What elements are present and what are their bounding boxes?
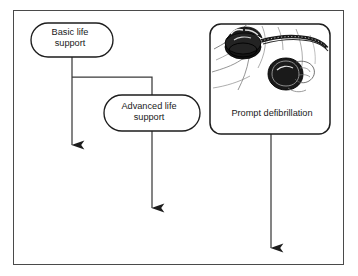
node-label-prompt-defibrillation: Prompt defibrillation — [212, 108, 332, 119]
flow-diagram-figure: Basic life support Advanced life support… — [0, 0, 358, 276]
node-label-basic-life-support: Basic life support — [30, 27, 110, 49]
node-label-advanced-life-support: Advanced life support — [106, 101, 192, 123]
